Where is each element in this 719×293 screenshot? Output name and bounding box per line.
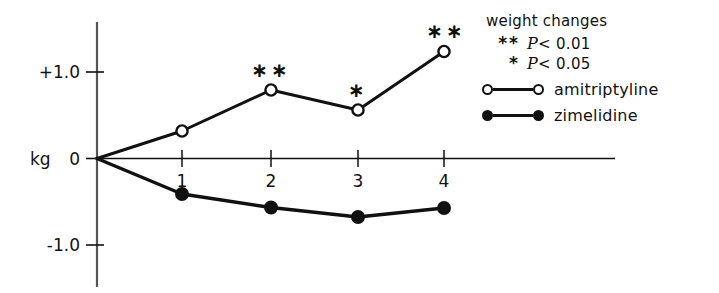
legend-stars-single: * [480, 55, 520, 72]
p-symbol-1: P [527, 34, 538, 53]
legend-significance-row-2: * P< 0.05 [480, 54, 719, 73]
x-tick-label-3: 3 [353, 171, 364, 191]
p-relation-2: < 0.05 [538, 55, 591, 73]
legend-line-segment-amitriptyline [493, 88, 533, 91]
x-tick-label-2: 2 [266, 171, 277, 191]
legend-label-amitriptyline: amitriptyline [554, 80, 659, 99]
open-circle-marker-icon [482, 84, 493, 95]
legend-p-value-2: P< 0.05 [527, 54, 591, 73]
y-tick-label-zero: 0 [69, 149, 80, 169]
y-axis-unit-label: kg [30, 149, 51, 169]
legend-p-value-1: P< 0.01 [527, 34, 591, 53]
legend-stars-double: ** [480, 35, 520, 52]
significance-marker-point-2: ∗∗ [251, 58, 291, 82]
legend-line-segment-zimelidine [493, 114, 533, 117]
weight-change-chart-figure: +1.0 0 -1.0 kg 1 2 3 4 ∗∗ ∗ ∗∗ [0, 0, 719, 293]
legend-label-zimelidine: zimelidine [554, 106, 638, 125]
data-point-zimelidine-4 [438, 202, 450, 214]
legend-series-amitriptyline: amitriptyline [482, 80, 719, 99]
significance-marker-point-4: ∗∗ [426, 19, 466, 43]
legend-key-open-circle [482, 84, 544, 95]
chart-legend: weight changes ** P< 0.01 * P< 0.05 amit… [480, 12, 719, 125]
p-symbol-2: P [527, 54, 538, 73]
filled-circle-marker-icon-2 [533, 110, 544, 121]
y-tick-label-minus-one: -1.0 [47, 235, 80, 255]
legend-key-filled-circle [482, 110, 544, 121]
x-tick-label-4: 4 [439, 171, 450, 191]
legend-series-zimelidine: zimelidine [482, 106, 719, 125]
y-tick-label-plus-one: +1.0 [39, 62, 80, 82]
data-point-amitriptyline-2 [265, 84, 276, 95]
significance-marker-point-3: ∗ [348, 78, 368, 102]
data-point-amitriptyline-4 [438, 46, 449, 57]
data-point-zimelidine-2 [265, 202, 277, 214]
data-point-zimelidine-3 [352, 211, 364, 223]
data-point-zimelidine-1 [176, 188, 188, 200]
data-point-amitriptyline-3 [352, 104, 363, 115]
p-relation-1: < 0.01 [538, 35, 591, 53]
legend-significance-row-1: ** P< 0.01 [480, 34, 719, 53]
filled-circle-marker-icon [482, 110, 493, 121]
open-circle-marker-icon-2 [533, 84, 544, 95]
data-point-amitriptyline-1 [176, 125, 187, 136]
legend-title: weight changes [486, 12, 719, 30]
